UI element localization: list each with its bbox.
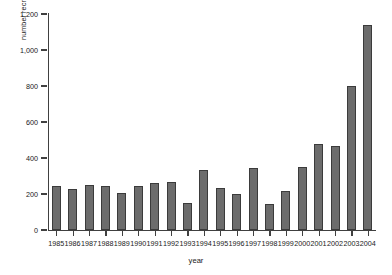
y-axis-tick-mark — [41, 121, 47, 122]
y-axis-tick-label: 1,000 — [0, 45, 38, 56]
y-axis-tick-label: 0 — [0, 225, 38, 236]
x-axis-tick-mark — [138, 230, 139, 236]
bar — [52, 186, 61, 230]
y-axis-tick-label: 1,200 — [0, 9, 38, 20]
bar — [183, 203, 192, 230]
bar — [314, 144, 323, 230]
bar — [363, 25, 372, 230]
x-axis-tick-mark — [351, 230, 352, 236]
bar — [216, 188, 225, 230]
x-axis-tick-mark — [319, 230, 320, 236]
x-axis-tick-mark — [204, 230, 205, 236]
x-axis-tick-mark — [105, 230, 106, 236]
bar — [281, 191, 290, 230]
x-axis-tick-mark — [368, 230, 369, 236]
x-axis-tick-mark — [335, 230, 336, 236]
y-axis-tick-mark — [41, 157, 47, 158]
bar — [347, 86, 356, 230]
x-axis-tick-mark — [187, 230, 188, 236]
bar — [232, 194, 241, 230]
y-axis-tick-label: 800 — [0, 81, 38, 92]
bar — [298, 167, 307, 230]
bar — [331, 146, 340, 230]
y-axis-tick-mark — [41, 193, 47, 194]
bars-container — [48, 14, 376, 230]
bar-chart: number recruited 02004006008001,0001,200… — [0, 0, 392, 275]
x-axis-tick-mark — [155, 230, 156, 236]
bar — [68, 189, 77, 230]
x-axis-ticks — [48, 230, 376, 238]
bar — [85, 185, 94, 230]
y-axis-tick-label: 200 — [0, 189, 38, 200]
x-axis-tick-mark — [269, 230, 270, 236]
x-axis-tick-mark — [73, 230, 74, 236]
x-axis-tick-mark — [89, 230, 90, 236]
y-axis-tick-mark — [41, 85, 47, 86]
x-axis-tick-mark — [56, 230, 57, 236]
x-axis-title: year — [0, 255, 392, 266]
x-axis-tick-mark — [171, 230, 172, 236]
bar — [101, 186, 110, 230]
x-axis-tick-mark — [286, 230, 287, 236]
bar — [167, 182, 176, 230]
x-axis-tick-mark — [122, 230, 123, 236]
x-axis-tick-labels: 1985198619871988198919901991199219931994… — [0, 238, 392, 250]
y-axis-tick-mark — [41, 49, 47, 50]
y-axis-tick-mark — [41, 229, 47, 230]
bar — [150, 183, 159, 230]
y-axis-tick-mark — [41, 13, 47, 14]
bar — [265, 204, 274, 230]
x-axis-tick-mark — [302, 230, 303, 236]
bar — [199, 170, 208, 230]
x-axis-tick-mark — [237, 230, 238, 236]
bar — [117, 193, 126, 230]
x-axis-tick-label: 2004 — [354, 238, 382, 249]
bar — [134, 186, 143, 230]
y-axis-tick-label: 400 — [0, 153, 38, 164]
y-axis-tick-label: 600 — [0, 117, 38, 128]
bar — [249, 168, 258, 230]
x-axis-tick-mark — [220, 230, 221, 236]
x-axis-tick-mark — [253, 230, 254, 236]
